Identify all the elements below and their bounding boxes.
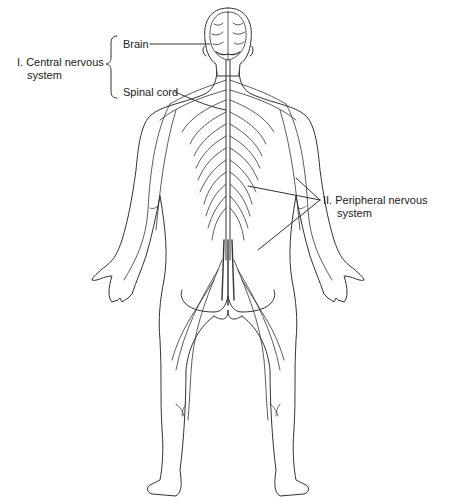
cns-label-line2: system (27, 69, 62, 82)
nervous-system-figure (0, 0, 456, 504)
pns-leader-lines (248, 178, 320, 250)
spinal-cord-leader-line (175, 92, 226, 110)
brain (210, 12, 246, 60)
cns-label-line1: I. Central nervous (17, 56, 104, 69)
brain-label: Brain (123, 38, 149, 51)
cns-bracket (106, 36, 117, 98)
pns-label-line1: II. Peripheral nervous (323, 194, 428, 207)
pns-label-line2: system (337, 207, 372, 220)
spinal-cord-label: Spinal cord (123, 86, 178, 99)
spinal-cord (222, 60, 234, 305)
